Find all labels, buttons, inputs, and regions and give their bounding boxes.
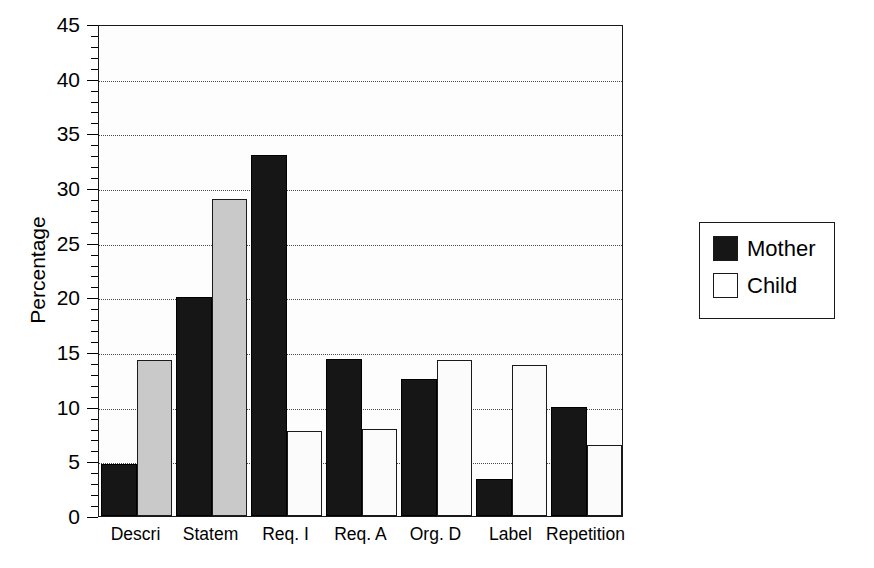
y-tick-label: 30	[57, 178, 80, 199]
bar-mother	[101, 464, 137, 516]
y-tick-minor	[91, 342, 98, 343]
y-tick-minor	[91, 473, 98, 474]
bar-child	[362, 429, 398, 516]
y-tick-minor	[91, 495, 98, 496]
y-tick-label: 20	[57, 287, 80, 308]
y-tick-major	[87, 189, 98, 190]
y-tick-label: 15	[57, 342, 80, 363]
y-tick-minor	[91, 451, 98, 452]
y-tick-minor	[91, 331, 98, 332]
y-tick-minor	[91, 145, 98, 146]
legend: Mother Child	[699, 222, 835, 319]
bar-mother	[251, 155, 287, 516]
bar-mother	[476, 479, 512, 516]
y-tick-label: 25	[57, 233, 80, 254]
y-tick-minor	[91, 375, 98, 376]
y-tick-major	[87, 517, 98, 518]
y-tick-minor	[91, 276, 98, 277]
bar-child	[137, 360, 173, 516]
bar-mother	[176, 297, 212, 516]
y-tick-minor	[91, 397, 98, 398]
y-tick-minor	[91, 200, 98, 201]
x-tick-label: Repetition	[536, 524, 635, 545]
y-tick-minor	[91, 36, 98, 37]
y-tick-label: 0	[68, 506, 80, 527]
gridline	[99, 245, 622, 246]
y-tick-major	[87, 353, 98, 354]
y-tick-minor	[91, 287, 98, 288]
y-tick-minor	[91, 178, 98, 179]
plot-area	[98, 25, 623, 517]
y-tick-minor	[91, 506, 98, 507]
y-tick-label: 10	[57, 397, 80, 418]
legend-swatch-child-icon	[713, 273, 738, 298]
y-tick-minor	[91, 211, 98, 212]
y-tick-minor	[91, 320, 98, 321]
y-tick-minor	[91, 123, 98, 124]
y-tick-minor	[91, 58, 98, 59]
y-tick-minor	[91, 266, 98, 267]
y-tick-major	[87, 25, 98, 26]
legend-label-mother: Mother	[747, 238, 815, 260]
y-tick-minor	[91, 167, 98, 168]
y-tick-major	[87, 408, 98, 409]
bar-mother	[326, 359, 362, 516]
gridline	[99, 135, 622, 136]
y-tick-label: 35	[57, 123, 80, 144]
bar-chart-figure: Percentage 051015202530354045 DescriStat…	[0, 0, 874, 568]
y-tick-label: 45	[57, 14, 80, 35]
y-tick-major	[87, 80, 98, 81]
y-axis-title: Percentage	[26, 170, 50, 370]
y-tick-minor	[91, 102, 98, 103]
gridline	[99, 81, 622, 82]
y-tick-minor	[91, 440, 98, 441]
y-tick-label: 40	[57, 69, 80, 90]
y-tick-minor	[91, 386, 98, 387]
legend-swatch-mother-icon	[713, 236, 738, 261]
y-tick-minor	[91, 430, 98, 431]
y-tick-minor	[91, 156, 98, 157]
y-tick-label: 5	[68, 451, 80, 472]
bar-mother	[401, 379, 437, 516]
y-tick-major	[87, 298, 98, 299]
y-tick-major	[87, 462, 98, 463]
y-tick-major	[87, 244, 98, 245]
y-tick-major	[87, 134, 98, 135]
y-tick-minor	[91, 222, 98, 223]
bar-mother	[551, 407, 587, 516]
y-tick-minor	[91, 112, 98, 113]
legend-entry-mother: Mother	[713, 236, 815, 261]
y-tick-minor	[91, 255, 98, 256]
y-tick-minor	[91, 364, 98, 365]
y-tick-minor	[91, 47, 98, 48]
gridline	[99, 190, 622, 191]
y-tick-minor	[91, 309, 98, 310]
legend-label-child: Child	[747, 275, 797, 297]
legend-entry-child: Child	[713, 273, 797, 298]
y-tick-minor	[91, 233, 98, 234]
y-tick-minor	[91, 419, 98, 420]
bar-child	[287, 431, 323, 516]
y-tick-minor	[91, 484, 98, 485]
y-tick-minor	[91, 91, 98, 92]
bar-child	[512, 365, 548, 516]
bar-child	[212, 199, 248, 516]
bar-child	[587, 445, 623, 516]
bar-child	[437, 360, 473, 516]
y-tick-minor	[91, 69, 98, 70]
